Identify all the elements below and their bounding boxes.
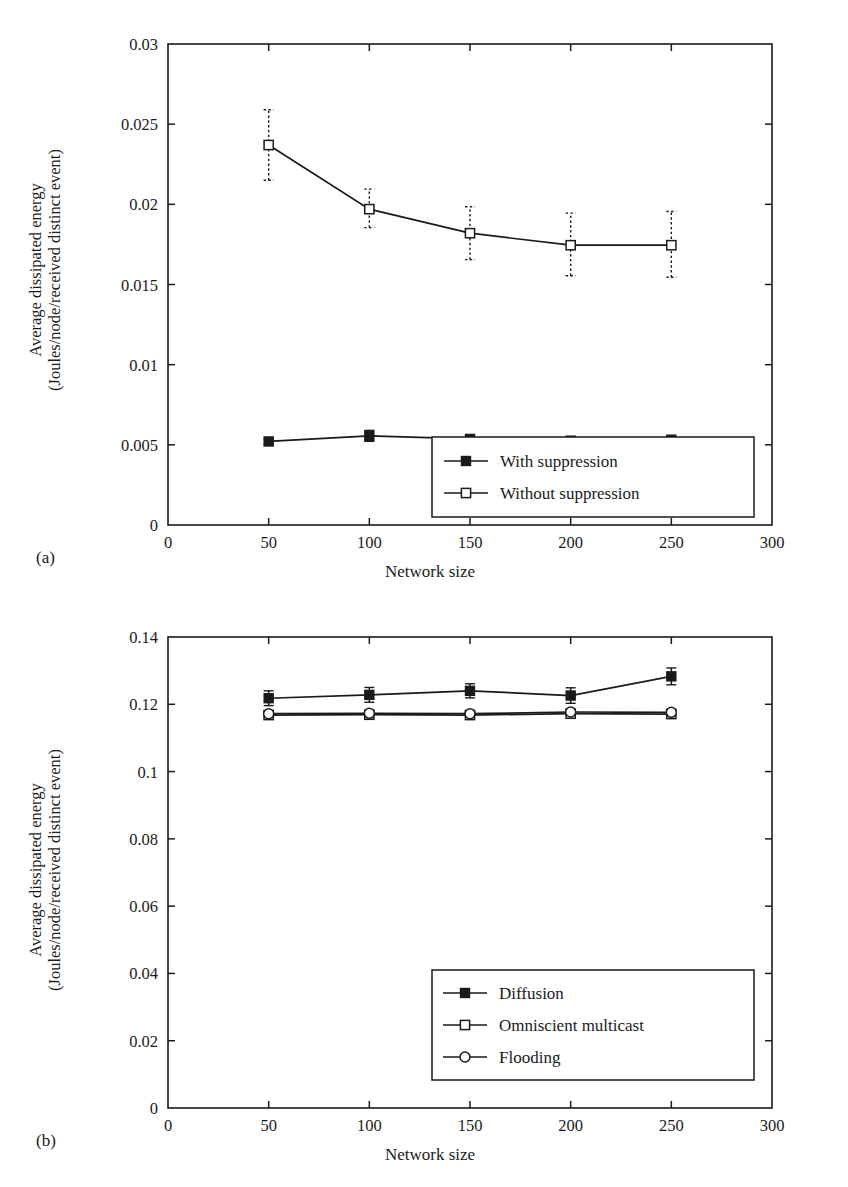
y-tick-label: 0.02 bbox=[129, 195, 158, 214]
data-point-marker bbox=[365, 431, 374, 440]
x-tick-label: 300 bbox=[760, 533, 785, 552]
y-tick-label: 0.1 bbox=[137, 763, 158, 782]
y-tick-label: 0.08 bbox=[129, 830, 158, 849]
data-point-marker bbox=[666, 707, 676, 717]
data-point-marker bbox=[365, 690, 374, 699]
x-tick-label: 100 bbox=[357, 1116, 382, 1135]
y-tick-label: 0.025 bbox=[121, 115, 158, 134]
chart-legend: With suppressionWithout suppression bbox=[432, 437, 754, 517]
data-point-marker bbox=[264, 694, 273, 703]
y-tick-label: 0.04 bbox=[129, 964, 158, 983]
data-point-marker bbox=[465, 229, 474, 238]
x-tick-label: 150 bbox=[458, 533, 483, 552]
y-tick-label: 0.03 bbox=[129, 35, 158, 54]
legend-box bbox=[432, 437, 754, 517]
legend-label: With suppression bbox=[500, 452, 618, 471]
chart-panel-a: Average dissipated energy (Joules/node/r… bbox=[0, 0, 848, 600]
y-tick-label: 0.005 bbox=[121, 436, 158, 455]
data-point-marker bbox=[667, 241, 676, 250]
chart-legend: DiffusionOmniscient multicastFlooding bbox=[432, 970, 754, 1080]
x-tick-label: 100 bbox=[357, 533, 382, 552]
chart-svg-a: 05010015020025030000.0050.010.0150.020.0… bbox=[0, 0, 848, 600]
series-flooding bbox=[264, 707, 677, 719]
y-tick-label: 0 bbox=[150, 516, 158, 535]
data-point-marker bbox=[365, 205, 374, 214]
data-point-marker bbox=[566, 241, 575, 250]
series-diffusion bbox=[264, 668, 677, 706]
y-tick-label: 0 bbox=[150, 1099, 158, 1118]
data-point-marker bbox=[465, 686, 474, 695]
data-point-marker bbox=[364, 708, 374, 718]
data-point-marker bbox=[460, 1052, 470, 1062]
data-point-marker bbox=[566, 691, 575, 700]
x-tick-label: 150 bbox=[458, 1116, 483, 1135]
y-tick-label: 0.12 bbox=[129, 695, 158, 714]
data-point-marker bbox=[264, 709, 274, 719]
data-point-marker bbox=[460, 988, 469, 997]
x-tick-label: 250 bbox=[659, 533, 684, 552]
data-point-marker bbox=[465, 709, 475, 719]
data-point-marker bbox=[461, 488, 470, 497]
legend-label: Without suppression bbox=[500, 484, 640, 503]
x-tick-label: 250 bbox=[659, 1116, 684, 1135]
data-point-marker bbox=[461, 456, 470, 465]
data-point-marker bbox=[566, 707, 576, 717]
y-tick-label: 0.14 bbox=[129, 628, 158, 647]
legend-label: Omniscient multicast bbox=[499, 1016, 644, 1035]
y-tick-label: 0.02 bbox=[129, 1032, 158, 1051]
x-tick-label: 50 bbox=[260, 1116, 277, 1135]
chart-panel-b: Average dissipated energy (Joules/node/r… bbox=[0, 600, 848, 1187]
x-tick-label: 0 bbox=[164, 1116, 172, 1135]
x-tick-label: 0 bbox=[164, 533, 172, 552]
chart-svg-b: 05010015020025030000.020.040.060.080.10.… bbox=[0, 600, 848, 1187]
data-point-marker bbox=[264, 437, 273, 446]
data-point-marker bbox=[264, 140, 273, 149]
x-tick-label: 200 bbox=[558, 533, 583, 552]
data-point-marker bbox=[667, 672, 676, 681]
legend-label: Diffusion bbox=[499, 984, 564, 1003]
legend-label: Flooding bbox=[499, 1048, 561, 1067]
y-tick-label: 0.015 bbox=[121, 276, 158, 295]
y-tick-label: 0.06 bbox=[129, 897, 158, 916]
data-point-marker bbox=[460, 1020, 469, 1029]
x-tick-label: 300 bbox=[760, 1116, 785, 1135]
x-tick-label: 200 bbox=[558, 1116, 583, 1135]
x-tick-label: 50 bbox=[260, 533, 277, 552]
y-tick-label: 0.01 bbox=[129, 356, 158, 375]
series-without-suppression bbox=[264, 110, 677, 278]
